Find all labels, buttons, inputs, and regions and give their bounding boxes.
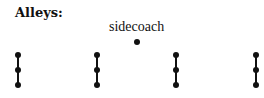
alley-2 bbox=[94, 52, 100, 88]
alley-1 bbox=[15, 52, 21, 88]
alley-4 bbox=[253, 52, 259, 88]
alley-3 bbox=[173, 52, 179, 88]
sidecoach-dot bbox=[134, 39, 140, 45]
alleys-diagram bbox=[0, 0, 264, 98]
